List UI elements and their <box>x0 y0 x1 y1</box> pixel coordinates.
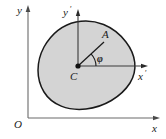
global-x-axis-label: x <box>151 122 157 134</box>
body-x-axis-arrowhead <box>141 64 148 68</box>
global-x-axis-arrowhead <box>153 116 160 121</box>
body-x-axis-label-group: x ′ <box>137 69 147 82</box>
point-a-label: A <box>101 28 109 40</box>
global-origin-label: O <box>14 118 22 130</box>
rigid-body-group <box>38 21 135 109</box>
body-y-axis-label-group: y ′ <box>62 5 72 18</box>
angle-phi-label: φ <box>97 53 103 64</box>
body-x-axis-prime: ′ <box>145 69 147 78</box>
body-x-axis-label: x <box>137 70 143 82</box>
global-y-axis-arrowhead <box>26 5 31 12</box>
body-y-axis-prime: ′ <box>70 5 72 14</box>
rigid-body-shape <box>38 21 135 109</box>
body-y-axis-arrowhead <box>76 9 80 16</box>
body-y-axis-label: y <box>62 6 68 18</box>
center-point-marker <box>75 63 80 68</box>
center-point-label: C <box>70 70 78 82</box>
figure-canvas: y x O y ′ x ′ C A φ <box>0 0 166 139</box>
mechanics-figure: y x O y ′ x ′ C A φ <box>0 0 166 139</box>
global-y-axis-label: y <box>16 4 22 16</box>
